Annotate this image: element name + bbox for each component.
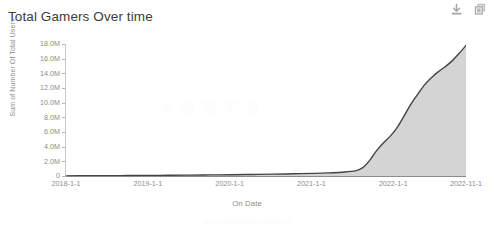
y-axis-tick-label: 6.0M [44, 128, 60, 135]
plot-area [66, 44, 466, 176]
x-axis-tick-label: 2021-1-1 [297, 180, 326, 187]
y-axis-tick-label: 8.0M [44, 114, 60, 121]
y-axis-tick-label: 4.0M [44, 143, 60, 150]
x-axis-tick-label: 2019-1-1 [133, 180, 162, 187]
watermark-bottom: 本文由数据分析平台生成 [0, 217, 494, 225]
y-axis-tick-label: 18.0M [40, 40, 60, 47]
y-axis-ticks: 18.0M16.0M14.0M12.0M10.0M8.0M6.0M4.0M2.0… [0, 38, 64, 183]
x-axis-tick-label: 2022-1-1 [379, 180, 408, 187]
chart-toolbar [449, 2, 488, 17]
y-axis-tick-label: 16.0M [40, 55, 60, 62]
x-axis-ticks: 2018-1-12019-1-12020-1-12021-1-12022-1-1… [0, 180, 494, 194]
y-axis-tick-label: 10.0M [40, 99, 60, 106]
x-axis-line [66, 176, 466, 177]
download-icon[interactable] [449, 2, 464, 17]
x-axis-tick-label: 2018-1-1 [52, 180, 81, 187]
y-axis-tick-label: 12.0M [40, 84, 60, 91]
chart-card: Total Gamers Over time 大 数 据 平 台 Sum of … [0, 0, 494, 225]
area-fill [66, 45, 466, 176]
area-series-svg [66, 44, 466, 176]
y-axis-tick-label: 14.0M [40, 70, 60, 77]
x-axis-title: On Date [0, 199, 494, 208]
x-axis-tick-label: 2022-11-1 [450, 180, 482, 187]
y-axis-tick-label: 2.0M [44, 158, 60, 165]
copy-icon[interactable] [473, 2, 488, 17]
x-axis-tick-label: 2020-1-1 [215, 180, 244, 187]
page-title: Total Gamers Over time [8, 9, 153, 24]
